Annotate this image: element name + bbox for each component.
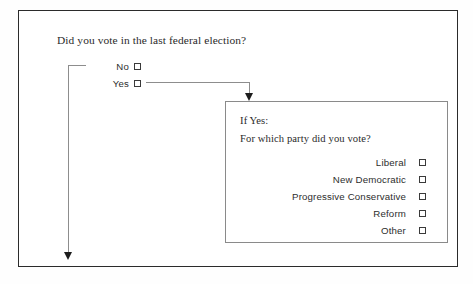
checkbox-reform[interactable] bbox=[419, 210, 426, 217]
checkbox-no[interactable] bbox=[134, 63, 141, 70]
party-row-progressive-conservative[interactable]: Progressive Conservative bbox=[226, 188, 447, 205]
party-row-other[interactable]: Other bbox=[226, 222, 447, 239]
option-row-yes[interactable]: Yes bbox=[85, 78, 141, 89]
form-outer-frame: Did you vote in the last federal electio… bbox=[18, 10, 458, 267]
arrowhead-down-icon-yes bbox=[245, 93, 253, 101]
party-option-list: Liberal New Democratic Progressive Conse… bbox=[226, 154, 447, 239]
party-row-liberal[interactable]: Liberal bbox=[226, 154, 447, 171]
branch-question: For which party did you vote? bbox=[240, 133, 371, 144]
option-label-no: No bbox=[116, 61, 129, 72]
arrowhead-down-icon-no bbox=[64, 252, 72, 260]
if-yes-branch-box: If Yes: For which party did you vote? Li… bbox=[225, 101, 448, 243]
checkbox-new-democratic[interactable] bbox=[419, 176, 426, 183]
checkbox-yes[interactable] bbox=[134, 80, 141, 87]
checkbox-other[interactable] bbox=[419, 227, 426, 234]
party-label-new-democratic: New Democratic bbox=[333, 174, 406, 185]
questionnaire-page: Did you vote in the last federal electio… bbox=[0, 0, 473, 284]
connector-yes-horizontal bbox=[146, 82, 250, 83]
connector-no-vertical bbox=[68, 65, 69, 255]
party-row-new-democratic[interactable]: New Democratic bbox=[226, 171, 447, 188]
connector-no-horizontal bbox=[68, 65, 86, 66]
checkbox-progressive-conservative[interactable] bbox=[419, 193, 426, 200]
checkbox-liberal[interactable] bbox=[419, 159, 426, 166]
party-label-reform: Reform bbox=[373, 208, 406, 219]
branch-heading: If Yes: bbox=[240, 115, 268, 126]
page-title: Did you vote in the last federal electio… bbox=[57, 34, 246, 46]
option-label-yes: Yes bbox=[113, 78, 129, 89]
party-row-reform[interactable]: Reform bbox=[226, 205, 447, 222]
party-label-progressive-conservative: Progressive Conservative bbox=[292, 191, 406, 202]
option-row-no[interactable]: No bbox=[85, 61, 141, 72]
party-label-liberal: Liberal bbox=[376, 157, 406, 168]
party-label-other: Other bbox=[381, 225, 406, 236]
